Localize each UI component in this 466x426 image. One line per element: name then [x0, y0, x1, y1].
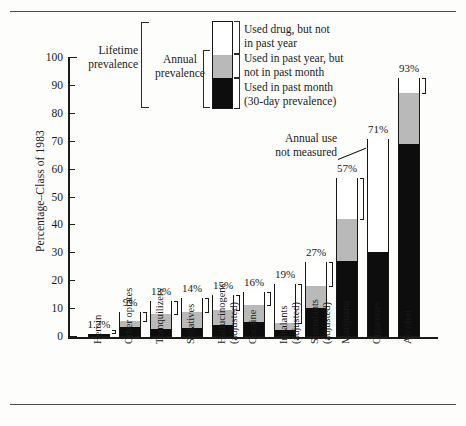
lifetime-bracket-8 — [360, 178, 364, 220]
x-category-label-6: Inhalants — [278, 306, 290, 345]
bar-segment-life — [306, 261, 326, 287]
y-tick-label-90: 90 — [31, 80, 63, 92]
lifetime-bracket-2 — [174, 301, 178, 315]
x-category-label-8: Marijuana — [340, 301, 352, 344]
legend-entry-bracket-past-year — [234, 54, 240, 78]
lifetime-bracket-3 — [205, 298, 209, 313]
lifetime-bracket-1 — [143, 312, 147, 322]
bar-value-label-8: 57% — [327, 163, 367, 174]
bar-segment-life — [368, 138, 388, 252]
legend-entry-bracket-past-month — [234, 78, 240, 109]
legend-entry-bracket-lifetime — [234, 21, 240, 54]
y-tick-label-10: 10 — [31, 303, 63, 315]
annotation-annual-use-not-measured: Annual use not measured — [232, 131, 337, 159]
bar-segment-life — [399, 77, 419, 94]
x-category-label-0: Heroin — [92, 315, 104, 344]
legend-swatch-past-month — [213, 78, 232, 108]
figure: 0102030405060708090100 Percentage–Class … — [0, 0, 466, 426]
legend-sample-bar — [212, 21, 233, 109]
top-rule — [10, 11, 456, 12]
y-tick-label-20: 20 — [31, 275, 63, 287]
legend-swatch-lifetime — [213, 22, 232, 55]
y-axis-title: Percentage–Class of 1983 — [34, 111, 46, 271]
bar-value-label-7: 27% — [296, 247, 336, 258]
x-category-label-4: Hallucinogens — [216, 283, 228, 344]
x-category-label-7: Stimulants — [309, 299, 321, 344]
x-category-label-7-line2: (adjusted) — [321, 302, 333, 344]
bottom-rule — [10, 404, 456, 405]
annual-bracket — [203, 50, 210, 108]
bar-alcohol[interactable] — [398, 78, 420, 337]
x-category-label-4-line2: (adjusted) — [228, 302, 240, 344]
x-category-label-9: Cigarettes — [371, 301, 383, 344]
legend-text-lifetime: Used drug, but not in past year — [244, 22, 330, 50]
lifetime-bracket-5 — [267, 292, 271, 305]
legend-annual-label: Annual prevalence — [150, 52, 210, 80]
legend-lifetime-label: Lifetime prevalence — [84, 43, 138, 71]
bar-segment-life — [337, 177, 357, 219]
x-category-label-1: Other opiates — [123, 288, 135, 344]
bar-value-label-10: 93% — [389, 63, 429, 74]
lifetime-bracket — [141, 22, 149, 108]
lifetime-bracket-10 — [422, 78, 426, 95]
y-tick-label-100: 100 — [31, 52, 63, 64]
x-category-label-10: Alcohol — [402, 310, 414, 344]
x-category-label-6-line2: (adjusted) — [290, 302, 302, 344]
bar-segment-month — [399, 144, 419, 337]
y-tick-label-0: 0 — [31, 331, 63, 343]
lifetime-bracket-7 — [329, 262, 333, 288]
legend-text-past-year: Used in past year, but not in past month — [244, 51, 344, 79]
legend-text-past-month: Used in past month (30-day prevalence) — [244, 80, 336, 108]
lifetime-bracket-0 — [112, 330, 116, 334]
bar-segment-year — [337, 219, 357, 261]
x-category-label-3: Sedatives — [185, 304, 197, 344]
legend-swatch-past-year — [213, 55, 232, 78]
bar-value-label-6: 19% — [265, 269, 305, 280]
x-category-label-5: Cocaine — [247, 310, 259, 344]
bar-segment-year — [399, 93, 419, 143]
bar-value-label-9: 71% — [358, 124, 398, 135]
x-category-label-2: Tranquilizers — [154, 288, 166, 344]
bar-segment-life — [244, 291, 264, 304]
